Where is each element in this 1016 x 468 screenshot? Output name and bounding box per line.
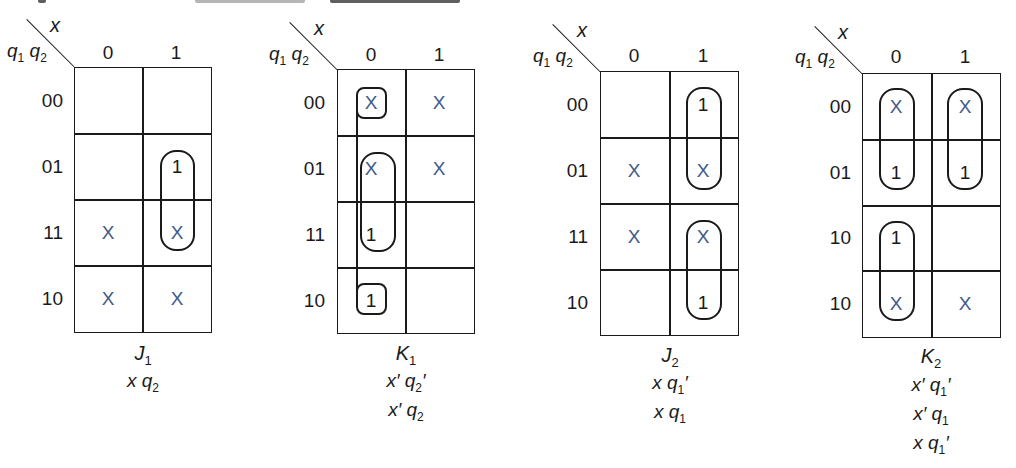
column-header: 0: [876, 46, 916, 68]
function-label: J1: [103, 342, 183, 368]
column-header: 1: [419, 44, 459, 66]
row-header: 01: [811, 162, 851, 184]
column-header: 1: [683, 45, 723, 67]
heading-fragment: [195, 0, 305, 3]
row-header: 00: [23, 90, 63, 112]
heading-fragment: [38, 0, 46, 3]
row-header: 11: [285, 224, 325, 246]
row-variables: q1 q2: [533, 45, 573, 70]
dont-care-cell: X: [88, 222, 128, 244]
column-header: 0: [614, 45, 654, 67]
row-variables: q1 q2: [7, 40, 47, 65]
wrap-around-connector: [356, 100, 358, 300]
row-header: 00: [548, 94, 588, 116]
row-header: 11: [548, 226, 588, 248]
dont-care-cell: X: [419, 158, 459, 180]
grouping-loop-wrap-top: [356, 87, 387, 119]
column-header: 1: [945, 46, 985, 68]
row-variables: q1 q2: [269, 43, 309, 68]
simplified-expression: x′ q2′x′ q2: [346, 370, 466, 428]
grouping-loop: [686, 87, 722, 190]
row-header: 11: [23, 222, 63, 244]
row-header: 10: [548, 292, 588, 314]
grid-divider: [74, 133, 212, 135]
dont-care-cell: X: [157, 288, 197, 310]
simplified-expression: x′ q1′x′ q1x q1′: [871, 374, 991, 460]
row-header: 01: [23, 156, 63, 178]
grid-divider: [862, 205, 1001, 207]
simplified-expression: x q1′x q1: [610, 372, 730, 430]
column-variable: x: [577, 19, 587, 42]
dont-care-cell: X: [945, 293, 985, 315]
dont-care-cell: X: [614, 160, 654, 182]
heading-fragment: [330, 0, 460, 3]
grouping-loop: [686, 220, 722, 320]
row-variables: q1 q2: [795, 46, 835, 71]
grouping-loop: [879, 221, 915, 321]
dont-care-cell: X: [614, 226, 654, 248]
dont-care-cell: X: [419, 92, 459, 114]
row-header: 10: [811, 227, 851, 249]
function-label: K1: [366, 342, 446, 368]
column-header: 0: [351, 44, 391, 66]
row-header: 10: [811, 293, 851, 315]
grouping-loop-wrap-bottom: [356, 283, 387, 315]
row-header: 00: [811, 96, 851, 118]
function-label: K2: [891, 345, 971, 371]
cropped-heading-fragment: [0, 0, 1016, 5]
row-header: 01: [548, 160, 588, 182]
column-variable: x: [838, 21, 848, 44]
row-header: 00: [285, 92, 325, 114]
dont-care-cell: X: [88, 288, 128, 310]
row-header: 10: [23, 288, 63, 310]
grouping-loop: [160, 150, 195, 251]
grid-divider: [600, 203, 739, 205]
function-label: J2: [630, 344, 710, 370]
column-variable: x: [50, 14, 60, 37]
simplified-expression: x q2: [83, 370, 203, 399]
grid-divider: [74, 265, 212, 267]
row-header: 10: [285, 290, 325, 312]
grouping-loop: [947, 88, 983, 190]
grouping-loop: [360, 152, 396, 252]
grouping-loop: [879, 88, 915, 190]
column-header: 1: [156, 42, 196, 64]
column-variable: x: [314, 17, 324, 40]
row-header: 01: [285, 158, 325, 180]
column-header: 0: [88, 42, 128, 64]
